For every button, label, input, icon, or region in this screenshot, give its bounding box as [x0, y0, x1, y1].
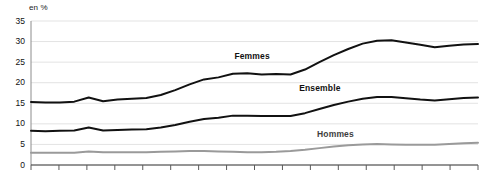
series-line-femmes: [31, 40, 478, 102]
x-axis-ticks: [31, 165, 478, 170]
line-chart: en % 05101520253035 FemmesEnsembleHommes: [0, 0, 482, 179]
grid-lines: [31, 21, 478, 144]
series-line-ensemble: [31, 97, 478, 131]
series-label-ensemble: Ensemble: [299, 83, 340, 93]
series-label-hommes: Hommes: [317, 129, 354, 139]
chart-plot-area: [0, 0, 482, 179]
series-label-femmes: Femmes: [234, 51, 269, 61]
